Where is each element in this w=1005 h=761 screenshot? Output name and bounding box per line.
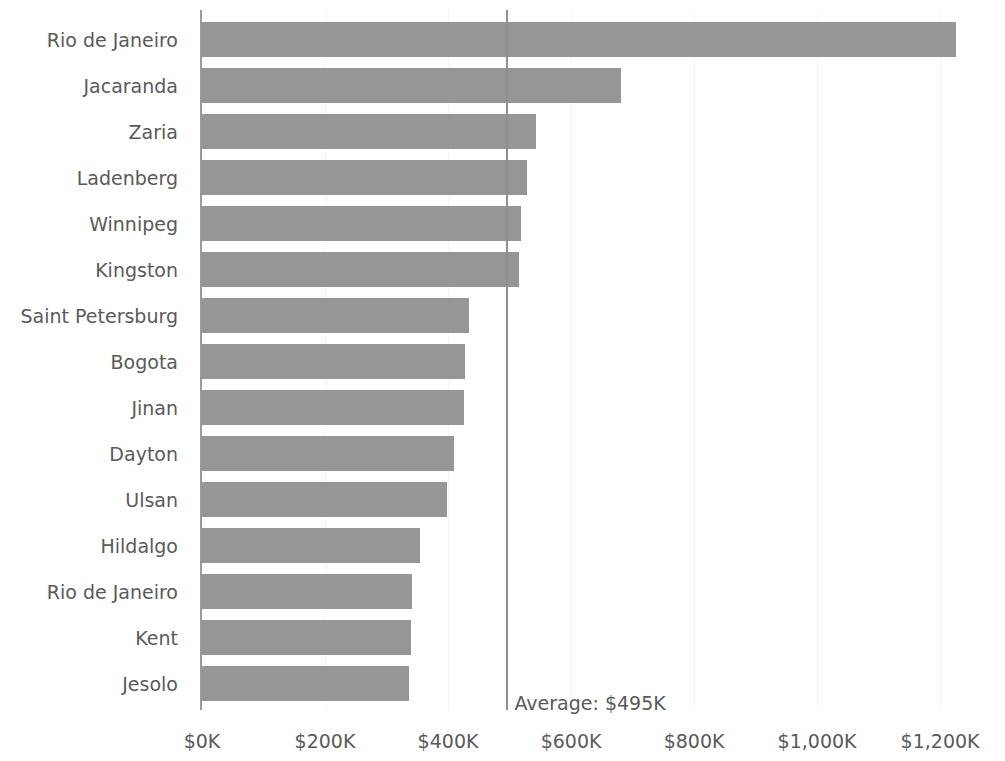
x-axis-tick-label: $0K — [184, 730, 221, 752]
y-axis-tick-labels: Rio de JaneiroJacarandaZariaLadenbergWin… — [0, 17, 190, 707]
bar-row[interactable] — [202, 109, 992, 155]
average-reference-line — [506, 10, 508, 710]
bar[interactable] — [202, 160, 527, 195]
x-axis-tick-label: $1,200K — [901, 730, 980, 752]
bar-row[interactable] — [202, 63, 992, 109]
y-axis-tick-label: Rio de Janeiro — [0, 569, 178, 615]
bar[interactable] — [202, 298, 469, 333]
bar-chart: Rio de JaneiroJacarandaZariaLadenbergWin… — [0, 0, 1005, 761]
bar-row[interactable] — [202, 523, 992, 569]
x-axis-tick-label: $400K — [418, 730, 479, 752]
y-axis-tick-label: Saint Petersburg — [0, 293, 178, 339]
y-axis-tick-label: Zaria — [0, 109, 178, 155]
x-axis-tick-label: $1,000K — [778, 730, 857, 752]
y-axis-tick-label: Jacaranda — [0, 63, 178, 109]
bar[interactable] — [202, 390, 464, 425]
y-axis-tick-label: Bogota — [0, 339, 178, 385]
y-axis-tick-label: Jinan — [0, 385, 178, 431]
bar[interactable] — [202, 574, 412, 609]
bar-row[interactable] — [202, 477, 992, 523]
bar[interactable] — [202, 252, 519, 287]
bar[interactable] — [202, 68, 621, 103]
bar[interactable] — [202, 482, 447, 517]
bar[interactable] — [202, 666, 409, 701]
x-axis-tick-label: $200K — [295, 730, 356, 752]
y-axis-tick-label: Dayton — [0, 431, 178, 477]
bar[interactable] — [202, 114, 536, 149]
x-axis-tick-labels: $0K$200K$400K$600K$800K$1,000K$1,200K — [0, 712, 1005, 761]
bar[interactable] — [202, 206, 521, 241]
y-axis-tick-label: Hildalgo — [0, 523, 178, 569]
bar[interactable] — [202, 528, 420, 563]
bar-row[interactable] — [202, 201, 992, 247]
y-axis-tick-label: Ulsan — [0, 477, 178, 523]
y-axis-tick-label: Rio de Janeiro — [0, 17, 178, 63]
bar[interactable] — [202, 436, 454, 471]
bar-row[interactable] — [202, 431, 992, 477]
bar-row[interactable] — [202, 569, 992, 615]
bar-row[interactable] — [202, 17, 992, 63]
x-axis-tick-label: $600K — [541, 730, 602, 752]
bar-row[interactable] — [202, 155, 992, 201]
y-axis-tick-label: Winnipeg — [0, 201, 178, 247]
x-axis-tick-label: $800K — [664, 730, 725, 752]
y-axis-tick-label: Kent — [0, 615, 178, 661]
bar[interactable] — [202, 344, 465, 379]
bar-row[interactable] — [202, 247, 992, 293]
y-axis-tick-label: Jesolo — [0, 661, 178, 707]
bar-row[interactable] — [202, 339, 992, 385]
bar-row[interactable] — [202, 615, 992, 661]
plot-area — [202, 17, 992, 707]
bar-row[interactable] — [202, 385, 992, 431]
bar-row[interactable] — [202, 293, 992, 339]
bar[interactable] — [202, 620, 411, 655]
average-reference-label: Average: $495K — [514, 692, 665, 714]
y-axis-tick-label: Ladenberg — [0, 155, 178, 201]
y-axis-tick-label: Kingston — [0, 247, 178, 293]
bar[interactable] — [202, 22, 956, 57]
